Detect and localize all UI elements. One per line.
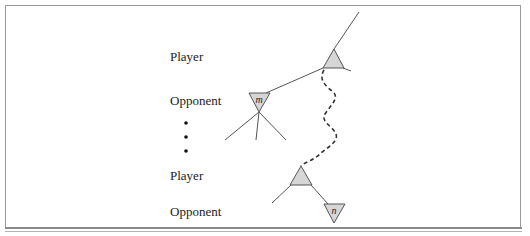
player-node-lower — [290, 166, 312, 185]
player-node-root — [323, 49, 344, 68]
node-label-m: m — [255, 94, 262, 105]
tree-edges — [225, 12, 359, 204]
opponent-node-m: m — [249, 93, 270, 112]
game-tree-diagram: m n — [0, 0, 530, 236]
opponent-node-n: n — [324, 204, 345, 223]
node-label-n: n — [332, 205, 337, 216]
dashed-path-ellipsis — [301, 70, 336, 166]
ellipsis-dots — [184, 121, 188, 153]
